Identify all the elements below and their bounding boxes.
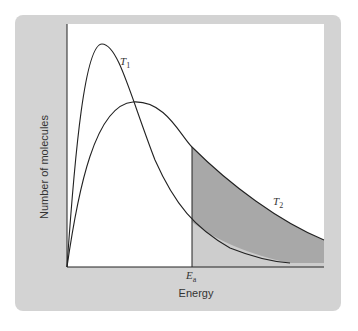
y-axis-label: Number of molecules: [38, 115, 50, 219]
t2-label: T2: [273, 195, 283, 210]
chart-plot: [0, 0, 358, 331]
t1-label: T1: [120, 55, 130, 70]
x-axis-label: Energy: [179, 287, 214, 299]
ea-label: Ea: [186, 269, 196, 284]
